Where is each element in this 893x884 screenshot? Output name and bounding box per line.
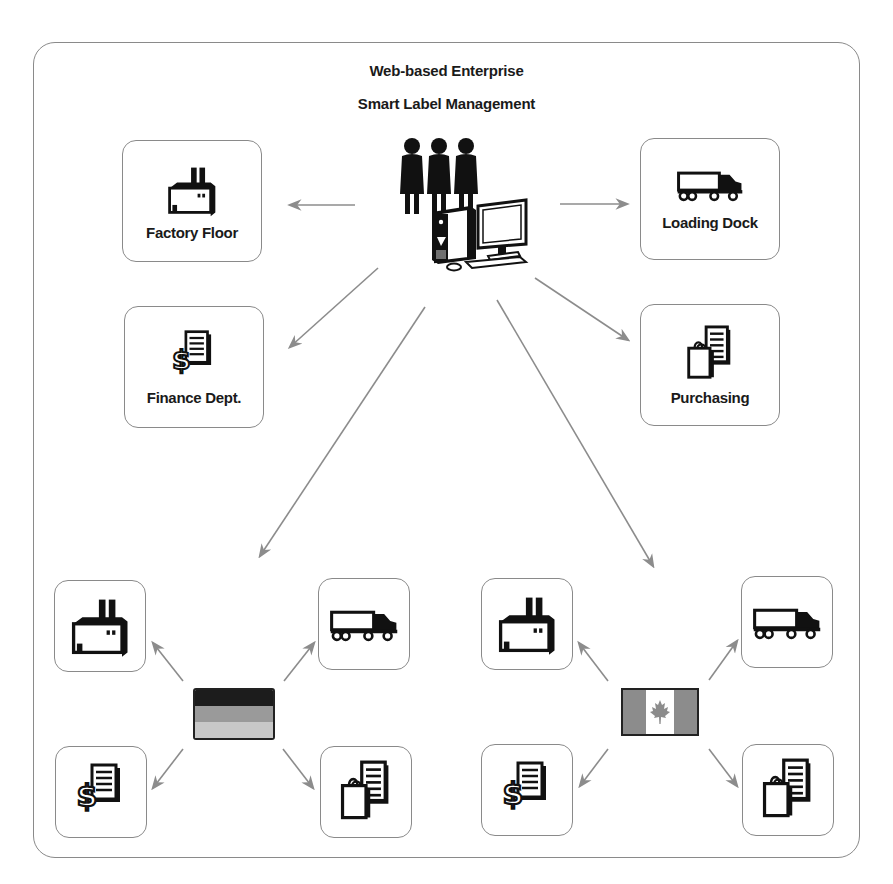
arrow-to-finance [290, 268, 378, 347]
shopping-bag-document-icon [334, 760, 398, 824]
germany-node-truck[interactable] [318, 578, 410, 670]
flag-stripe-gold [195, 722, 273, 738]
germany-flag-icon[interactable] [193, 688, 275, 740]
arrow-ca-factory [579, 643, 608, 681]
arrow-to-canada [497, 300, 653, 566]
canada-flag-icon[interactable] [621, 688, 699, 736]
canada-node-purchasing[interactable] [742, 744, 834, 836]
flag-band-left [623, 690, 646, 734]
arrow-de-factory [153, 643, 183, 681]
germany-node-factory[interactable] [54, 580, 146, 672]
shopping-bag-document-icon [681, 325, 739, 383]
dept-factory-floor[interactable]: Factory Floor [122, 140, 262, 262]
factory-icon [164, 162, 220, 218]
arrow-to-purchasing [535, 278, 628, 340]
factory-icon [67, 593, 133, 659]
canada-node-truck[interactable] [741, 576, 833, 668]
germany-node-purchasing[interactable] [320, 746, 412, 838]
truck-icon [752, 605, 822, 640]
dept-label: Purchasing [671, 389, 750, 406]
finance-document-icon [71, 762, 131, 822]
flag-band-right [674, 690, 697, 734]
finance-document-icon [497, 760, 557, 820]
shopping-bag-document-icon [756, 758, 820, 822]
factory-icon [494, 591, 560, 657]
dept-finance[interactable]: Finance Dept. [124, 306, 264, 428]
canada-node-factory[interactable] [481, 578, 573, 670]
arrow-de-purchasing [283, 749, 313, 788]
canada-node-finance[interactable] [481, 744, 573, 836]
flag-stripe-black [195, 690, 273, 706]
dept-label: Finance Dept. [147, 389, 241, 406]
germany-node-finance[interactable] [55, 746, 147, 838]
arrow-de-truck [284, 643, 314, 681]
flag-band-center [646, 690, 674, 734]
arrow-to-germany [260, 307, 425, 556]
arrow-ca-finance [580, 749, 608, 786]
maple-leaf-icon [648, 698, 672, 726]
truck-icon [329, 607, 399, 642]
arrow-ca-truck [709, 641, 737, 680]
arrow-de-finance [153, 749, 183, 788]
dept-label: Factory Floor [146, 224, 238, 241]
dept-label: Loading Dock [662, 214, 758, 231]
dept-loading-dock[interactable]: Loading Dock [640, 138, 780, 260]
hub-users-computer [392, 134, 532, 274]
truck-icon [676, 168, 744, 202]
users-with-computer-icon [392, 134, 532, 274]
dept-purchasing[interactable]: Purchasing [640, 304, 780, 426]
finance-document-icon [167, 329, 221, 383]
arrow-ca-purchasing [709, 749, 737, 786]
flag-stripe-red [195, 706, 273, 722]
